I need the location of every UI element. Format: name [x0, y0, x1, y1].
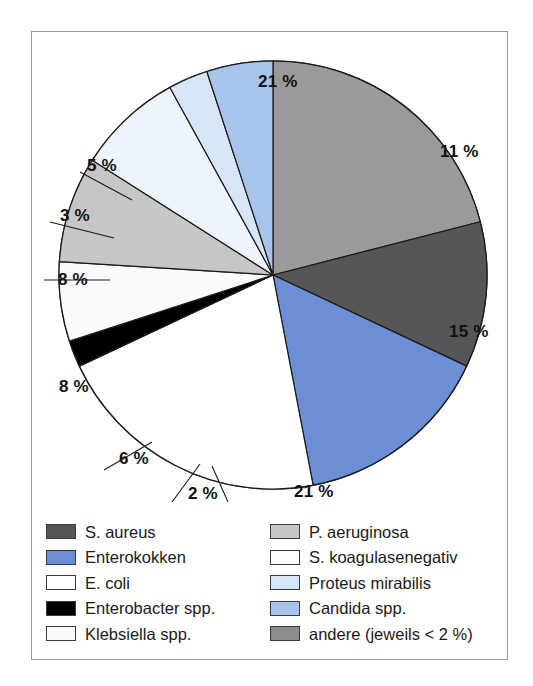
- pie-percentage-label: 2 %: [188, 484, 218, 504]
- pie-percentage-label: 8 %: [58, 270, 88, 290]
- legend-item[interactable]: E. coli: [46, 570, 269, 596]
- legend-color-swatch: [46, 550, 76, 565]
- pie-percentage-label: 15 %: [449, 322, 489, 342]
- legend-item[interactable]: Proteus mirabilis: [270, 570, 493, 596]
- legend-color-swatch: [46, 626, 76, 641]
- legend-item[interactable]: S. koagulasenegativ: [270, 545, 493, 571]
- pie-percentage-label: 8 %: [59, 377, 89, 397]
- legend-item[interactable]: Enterokokken: [46, 545, 269, 571]
- legend-color-swatch: [270, 626, 300, 641]
- chart-legend: S. aureusEnterokokkenE. coliEnterobacter…: [46, 519, 492, 647]
- legend-item-label: S. koagulasenegativ: [309, 549, 458, 566]
- legend-item-label: E. coli: [85, 575, 130, 592]
- legend-item-label: Enterokokken: [85, 549, 186, 566]
- legend-color-swatch: [270, 550, 300, 565]
- legend-item-label: andere (jeweils < 2 %): [309, 626, 473, 643]
- legend-color-swatch: [270, 524, 300, 539]
- pie-percentage-label: 21 %: [258, 72, 298, 92]
- legend-item-label: P. aeruginosa: [309, 524, 409, 541]
- pie-chart-area: 21 %11 %15 %21 %2 %6 %8 %8 %3 %5 %: [32, 32, 506, 502]
- legend-column-right: P. aeruginosaS. koagulasenegativProteus …: [270, 519, 493, 647]
- legend-item[interactable]: Klebsiella spp.: [46, 621, 269, 647]
- legend-item-label: S. aureus: [85, 524, 156, 541]
- pie-chart-svg: [32, 32, 506, 502]
- legend-item-label: Klebsiella spp.: [85, 626, 191, 643]
- pie-slices-group: [59, 61, 487, 489]
- legend-column-left: S. aureusEnterokokkenE. coliEnterobacter…: [46, 519, 269, 647]
- legend-item[interactable]: S. aureus: [46, 519, 269, 545]
- pie-percentage-label: 5 %: [87, 156, 117, 176]
- legend-item-label: Candida spp.: [309, 600, 406, 617]
- legend-item-label: Proteus mirabilis: [309, 575, 431, 592]
- pie-percentage-label: 21 %: [294, 482, 334, 502]
- legend-item[interactable]: Candida spp.: [270, 596, 493, 622]
- legend-color-swatch: [270, 601, 300, 616]
- legend-item-label: Enterobacter spp.: [85, 600, 215, 617]
- pie-percentage-label: 6 %: [119, 449, 149, 469]
- pie-percentage-label: 3 %: [60, 206, 90, 226]
- pie-percentage-label: 11 %: [440, 142, 479, 162]
- legend-item[interactable]: Enterobacter spp.: [46, 596, 269, 622]
- legend-color-swatch: [46, 601, 76, 616]
- figure-frame: 21 %11 %15 %21 %2 %6 %8 %8 %3 %5 % S. au…: [31, 31, 508, 660]
- legend-item[interactable]: andere (jeweils < 2 %): [270, 621, 493, 647]
- legend-color-swatch: [270, 575, 300, 590]
- legend-color-swatch: [46, 524, 76, 539]
- legend-item[interactable]: P. aeruginosa: [270, 519, 493, 545]
- legend-color-swatch: [46, 575, 76, 590]
